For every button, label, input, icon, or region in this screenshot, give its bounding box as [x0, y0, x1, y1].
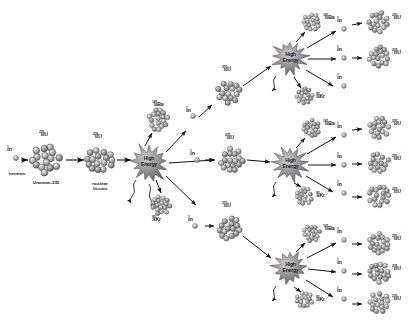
label-neutron-g1-top: 10n — [186, 107, 191, 114]
nucleus-krypton — [295, 291, 314, 308]
nucleus-uranium — [367, 45, 390, 69]
neutron-particle — [342, 191, 347, 196]
label-kr-gen1: 9236Kr — [152, 216, 161, 223]
nucleus-barium — [302, 13, 320, 31]
neutron-particle — [342, 133, 347, 138]
caption-neutron: neutron — [2, 172, 32, 177]
neutron-particle — [342, 163, 347, 168]
label-neutron-g1-bot: 10n — [188, 216, 193, 223]
nucleus-uranium — [29, 144, 62, 176]
label-u235-gen3: 23592U — [392, 235, 401, 242]
label-ba-bot: 14156Ba — [323, 225, 335, 232]
label-u235-g1-mid: 23592U — [225, 134, 234, 141]
fission-diagram: 10n neutron 23592U Uranium-235 23692U nu… — [0, 0, 409, 320]
label-u235-g1-top: 23592U — [222, 66, 231, 73]
label-u235-gen3: 23592U — [392, 120, 401, 127]
label-neutron-emitted: 10n — [337, 228, 342, 235]
label-neutron-emitted: 10n — [337, 153, 342, 160]
label-u235-gen3: 23592U — [392, 188, 401, 195]
nucleus-uranium — [85, 147, 116, 172]
nucleus-barium — [147, 108, 170, 132]
label-ba-top: 14156Ba — [323, 14, 335, 21]
label-kr-mid: 9236Kr — [316, 192, 325, 199]
label-neutron-emitted: 10n — [337, 123, 342, 130]
nucleus-uranium — [367, 231, 390, 255]
nucleus-uranium — [368, 292, 390, 314]
nuclei-layer — [29, 11, 391, 314]
label-u235-gen3: 23592U — [392, 295, 401, 302]
nucleus-uranium — [217, 216, 242, 241]
neutron-particle — [342, 27, 347, 32]
label-u235-gen3: 23592U — [392, 155, 401, 162]
nucleus-krypton — [295, 87, 315, 105]
neutron-particle — [195, 158, 200, 163]
label-kr-top: 9236Kr — [316, 93, 325, 100]
label-kr-bot: 9236Kr — [316, 296, 325, 303]
arrows-gen1-feed — [199, 105, 215, 226]
neutron-particle — [342, 238, 347, 243]
nucleus-krypton — [295, 186, 313, 205]
nucleus-uranium — [218, 146, 245, 172]
neutron-particle — [342, 84, 347, 89]
nucleus-uranium — [368, 152, 391, 174]
caption-uranium-235: Uranium-235 — [22, 181, 70, 186]
nucleus-uranium — [216, 81, 243, 106]
burst-label-gen0: HighEnergy — [133, 156, 165, 167]
label-neutron-start: 10n — [7, 146, 12, 153]
nucleus-uranium — [367, 185, 391, 208]
neutron-particle — [13, 155, 18, 160]
burst-label-mid: HighEnergy — [275, 158, 306, 169]
label-u235-gen3: 23592U — [392, 265, 401, 272]
caption-nuclear-fission: nuclearfission — [81, 181, 119, 191]
label-neutron-emitted: 10n — [337, 17, 342, 24]
label-neutron-emitted: 10n — [337, 181, 342, 188]
label-u235-gen3: 23592U — [392, 14, 401, 21]
diagram-canvas — [0, 0, 409, 320]
nucleus-uranium — [367, 11, 390, 35]
nucleus-uranium — [368, 262, 391, 284]
label-neutron-emitted: 10n — [337, 259, 342, 266]
label-neutron-g1-mid: 10n — [190, 150, 195, 157]
neutron-particle — [191, 114, 196, 119]
label-neutron-emitted: 10n — [337, 46, 342, 53]
label-u235-gen3: 23592U — [392, 49, 401, 56]
burst-label-bot: HighEnergy — [275, 262, 306, 273]
label-u235-g1-bot: 23592U — [222, 202, 231, 209]
nucleus-barium — [302, 225, 321, 243]
gamma-rays-gen0 — [130, 180, 152, 206]
neutron-particle — [342, 297, 347, 302]
label-neutron-emitted: 10n — [337, 74, 342, 81]
label-ba-mid: 14156Ba — [323, 120, 335, 127]
label-u235-start: 23592U — [39, 131, 48, 138]
neutron-particle — [342, 56, 347, 61]
arrows-gen2-in — [243, 66, 271, 258]
label-u236-compound: 23692U — [93, 133, 102, 140]
nucleus-barium — [302, 118, 321, 138]
label-neutron-emitted: 10n — [337, 287, 342, 294]
neutron-particle — [193, 224, 198, 229]
nucleus-krypton — [151, 195, 172, 216]
nucleus-uranium — [368, 116, 391, 140]
label-ba-gen1: 14156Ba — [152, 101, 164, 108]
neutron-particle — [342, 269, 347, 274]
burst-label-top: HighEnergy — [275, 52, 306, 63]
